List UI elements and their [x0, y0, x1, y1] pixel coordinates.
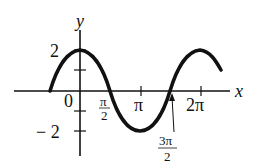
- y-tick-label-2: 2: [50, 41, 59, 61]
- origin-label: 0: [64, 91, 73, 111]
- x-tick-label-3pi-half-den: 2: [164, 149, 171, 164]
- y-tick-label-neg2: − 2: [36, 122, 60, 142]
- x-tick-label-pi-half-num: π: [100, 94, 107, 109]
- x-tick-label-pi: π: [134, 95, 143, 115]
- x-axis-label: x: [234, 81, 243, 101]
- x-tick-label-3pi-half-num: 3π: [159, 133, 173, 148]
- y-axis-label: y: [74, 11, 84, 31]
- x-tick-label-2pi: 2π: [186, 95, 204, 115]
- x-tick-label-pi-half-den: 2: [101, 108, 108, 123]
- chart-canvas: y x 2 − 2 0 π 2 π 2π 3π 2: [0, 0, 265, 168]
- annotation-arrow: [172, 97, 174, 132]
